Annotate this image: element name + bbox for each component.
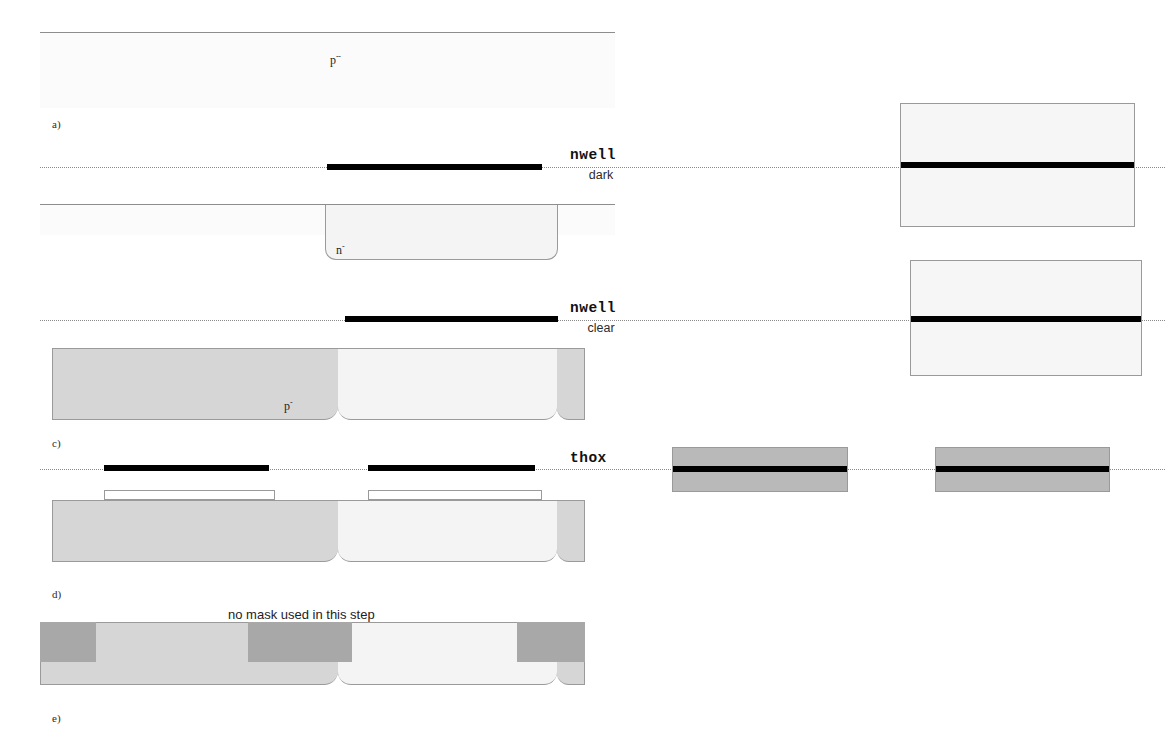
field-oxide-block-1 (40, 622, 96, 662)
nitride-pad-left (104, 490, 275, 500)
mask-name-nwell-dark: nwell (570, 147, 616, 163)
substrate-body-p-double-minus (40, 33, 615, 108)
region-label-n-minus: n- (336, 242, 344, 258)
mask-name-nwell-clear: nwell (570, 300, 616, 316)
n-well-tub (325, 205, 558, 260)
nitride-pad-right (368, 490, 542, 500)
mask-plate-thox-left (672, 447, 848, 492)
step-e-cross-section (40, 622, 585, 694)
mask-bar-nwell-clear (345, 316, 558, 322)
p-minus-region-right (557, 348, 585, 420)
mask-name-thox: thox (570, 450, 607, 466)
step-label-a: a) (52, 118, 61, 130)
mask-plate-nwell-clear-bar (911, 316, 1141, 322)
field-oxide-block-2 (248, 622, 352, 662)
mask-plate-thox-right (935, 447, 1110, 492)
n-well-region-center-d (338, 500, 557, 562)
mask-bar-nwell-dark (327, 164, 542, 170)
figure-canvas: p-- a) nwell dark n- nwell clear p- (0, 0, 1171, 747)
step-label-e: e) (52, 712, 61, 724)
mask-plate-thox-left-bar (673, 466, 847, 472)
mask-tone-nwell-dark: dark (570, 168, 632, 182)
p-minus-region-right-d (557, 500, 585, 562)
region-label-p-minus: p- (284, 398, 292, 414)
mask-tone-nwell-clear: clear (570, 321, 632, 335)
region-label-p-double-minus: p-- (330, 52, 340, 68)
step-c-cross-section: p- (52, 348, 585, 422)
mask-bar-thox-right (368, 465, 535, 471)
region-label-n-minus-sup: - (342, 242, 344, 251)
step-b-cross-section: n- (40, 200, 615, 262)
n-well-region-center-c (338, 348, 557, 420)
mask-bar-thox-left (104, 465, 269, 471)
p-minus-region-left (52, 348, 338, 420)
step-d-cross-section (52, 490, 585, 572)
region-label-p-double-minus-sup: -- (336, 52, 340, 61)
mask-plate-thox-right-bar (936, 466, 1109, 472)
step-a-cross-section: p-- (40, 28, 615, 108)
region-label-p-minus-sup: - (290, 398, 292, 407)
field-oxide-block-3 (517, 622, 585, 662)
step-label-d: d) (52, 588, 61, 600)
mask-plate-nwell-dark-bar (901, 162, 1134, 168)
p-minus-region-left-d (52, 500, 338, 562)
mask-plate-nwell-clear (910, 260, 1142, 376)
mask-plate-nwell-dark (900, 103, 1135, 227)
step-e-note: no mask used in this step (228, 607, 375, 622)
step-label-c: c) (52, 437, 61, 449)
